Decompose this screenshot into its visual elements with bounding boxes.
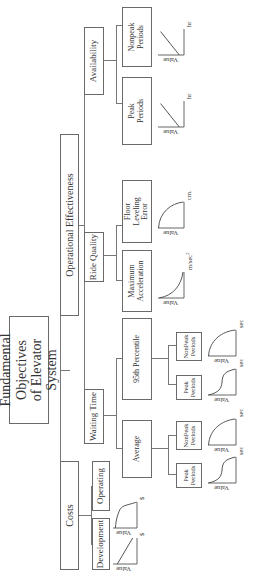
value-curve — [117, 538, 132, 564]
y-axis-label: Value — [163, 129, 178, 136]
connector — [116, 359, 117, 449]
y-axis-label: Value — [214, 397, 229, 404]
95th-percentile-label: 95th Percentile — [133, 335, 142, 383]
waiting-time-box: Waiting Time — [84, 389, 104, 444]
x-axis-unit-label: hr — [185, 22, 192, 27]
p95-nonpeak-chart-svg — [208, 330, 236, 356]
connector — [151, 358, 168, 359]
connector — [168, 345, 176, 346]
operating-chart-svg — [113, 502, 137, 528]
x-axis-unit-label: m/sec2 — [185, 253, 193, 270]
connector — [104, 415, 116, 416]
availability-peak-periods-label: Peak Periods — [128, 99, 146, 123]
operating-value-function-chart: Value$ — [113, 502, 137, 528]
value-curve — [159, 272, 183, 298]
y-axis-label: Value — [163, 57, 178, 64]
value-curve — [209, 369, 236, 395]
floor-leveling-error-box: Floor Leveling Error — [122, 180, 152, 243]
availability-label: Availability — [89, 40, 99, 82]
value-curve — [209, 457, 236, 483]
percentile-nonpeak-periods-box: NonPeak Periods — [176, 332, 202, 361]
average-peak-periods-box: Peak Periods — [176, 463, 202, 488]
x-axis-unit-label: sec — [237, 409, 244, 417]
95th-percentile-box: 95th Percentile — [122, 318, 152, 400]
p95-peak-chart-svg — [208, 369, 236, 395]
x-axis-unit-label: $ — [138, 533, 145, 536]
connector — [116, 226, 117, 281]
y-axis-label: Value — [163, 230, 178, 237]
max-acceleration-chart-svg — [158, 272, 184, 298]
y-axis-label: Value — [116, 566, 131, 573]
availability-box: Availability — [84, 27, 104, 95]
x-axis-unit-label: cm. — [185, 190, 192, 200]
x-axis-unit-label: sec — [237, 447, 244, 455]
x-axis-unit-label: sec — [237, 359, 244, 367]
connector — [116, 26, 117, 104]
operational-effectiveness-label: Operational Effectiveness — [64, 173, 75, 276]
operational-effectiveness-box: Operational Effectiveness — [60, 134, 79, 316]
value-curve — [209, 419, 236, 445]
connector — [104, 255, 116, 256]
average-box: Average — [122, 420, 152, 478]
connector — [104, 60, 116, 61]
costs-label: Costs — [64, 504, 75, 526]
value-curve — [161, 32, 180, 55]
value-curve — [209, 330, 236, 356]
value-curve — [161, 104, 180, 127]
avail-peak-chart-svg — [158, 101, 184, 127]
maximum-acceleration-box: Maximum Acceleration — [122, 250, 152, 312]
x-axis-unit-label: hr — [185, 94, 192, 99]
development-chart-svg — [113, 538, 137, 564]
floor-leveling-chart-svg — [158, 202, 184, 228]
percentile-nonpeak-periods-label: NonPeak Periods — [182, 335, 196, 359]
average-label: Average — [133, 436, 142, 463]
unit-exponent: 2 — [185, 253, 190, 255]
percentile-peak-periods-box: Peak Periods — [176, 375, 202, 400]
max-acceleration-value-function-chart: Valuem/sec2 — [158, 272, 184, 298]
x-axis-unit-label: $ — [138, 497, 145, 500]
avail-nonpeak-chart-svg — [158, 29, 184, 55]
waiting-time-label: Waiting Time — [89, 392, 99, 441]
connector — [60, 370, 70, 371]
connector — [79, 515, 91, 516]
p95-peak-value-function-chart: Valuesec — [208, 369, 236, 395]
average-nonpeak-periods-label: NonPeak Periods — [182, 424, 196, 448]
operating-label: Operating — [96, 468, 106, 504]
y-axis-label: Value — [214, 358, 229, 365]
p95-nonpeak-value-function-chart: Valuesec — [208, 330, 236, 356]
connector — [168, 435, 176, 436]
connector — [151, 448, 168, 449]
connector — [168, 436, 169, 475]
maximum-acceleration-label: Maximum Acceleration — [128, 261, 146, 302]
connector — [168, 346, 169, 385]
costs-box: Costs — [60, 461, 79, 570]
root-objective-box: Fundamental Objectives of Elevator Syste… — [9, 316, 49, 424]
operating-box: Operating — [92, 461, 110, 511]
y-axis-label: Value — [214, 485, 229, 492]
floor-leveling-value-function-chart: Valuecm. — [158, 202, 184, 228]
avg-nonpeak-chart-svg — [208, 419, 236, 445]
availability-nonpeak-periods-box: Nonpeak Periods — [122, 7, 152, 67]
avg-nonpeak-value-function-chart: Valuesec — [208, 419, 236, 445]
value-curve — [159, 202, 184, 228]
avail-nonpeak-value-function-chart: Valuehr — [158, 29, 184, 55]
floor-leveling-error-label: Floor Leveling Error — [124, 197, 150, 225]
availability-peak-periods-box: Peak Periods — [122, 77, 152, 145]
percentile-peak-periods-label: Peak Periods — [182, 378, 196, 398]
development-value-function-chart: Value$ — [113, 538, 137, 564]
ride-quality-box: Ride Quality — [84, 232, 104, 282]
y-axis-label: Value — [116, 530, 131, 537]
objectives-hierarchy-diagram: Fundamental Objectives of Elevator Syste… — [0, 0, 263, 576]
x-axis-unit-label: sec — [237, 320, 244, 328]
connector — [168, 474, 176, 475]
y-axis-label: Value — [214, 447, 229, 454]
value-curve — [115, 502, 136, 528]
root-objective-label: Fundamental Objectives of Elevator Syste… — [0, 317, 60, 423]
y-axis-label: Value — [163, 300, 178, 307]
avg-peak-chart-svg — [208, 457, 236, 483]
average-peak-periods-label: Peak Periods — [182, 466, 196, 486]
development-box: Development — [92, 518, 110, 570]
ride-quality-label: Ride Quality — [89, 234, 99, 280]
avg-peak-value-function-chart: Valuesec — [208, 457, 236, 483]
availability-nonpeak-periods-label: Nonpeak Periods — [128, 23, 146, 52]
